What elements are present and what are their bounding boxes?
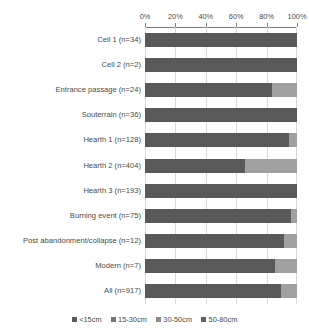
x-axis-tick-label: 40% xyxy=(198,12,213,21)
bar-segment xyxy=(284,234,297,248)
bar-segment xyxy=(245,159,297,173)
plot-area xyxy=(145,27,297,304)
bar-segment xyxy=(145,133,289,147)
bar-segment xyxy=(145,284,281,298)
category-label: Hearth 2 (n=404) xyxy=(0,162,141,170)
bar-segment xyxy=(289,133,297,147)
bar-segment xyxy=(145,83,272,97)
category-label: Souterrain (n=36) xyxy=(0,111,141,119)
x-axis-tick-label: 20% xyxy=(168,12,183,21)
legend-item: 15-30cm xyxy=(111,316,147,323)
legend-label: 15-30cm xyxy=(118,316,147,323)
x-axis-tick-label: 80% xyxy=(259,12,274,21)
bar-row xyxy=(145,209,297,223)
x-axis-tick-label: 0% xyxy=(140,12,151,21)
bar-segment xyxy=(291,209,297,223)
legend-label: <15cm xyxy=(79,316,101,323)
category-label: Modern (n=7) xyxy=(0,262,141,270)
bar-segment xyxy=(145,234,284,248)
category-label: Post abandonment/collapse (n=12) xyxy=(0,237,141,245)
bar-row xyxy=(145,58,297,72)
category-label: Cell 1 (n=34) xyxy=(0,36,141,44)
bar-segment xyxy=(145,58,297,72)
bar-row xyxy=(145,33,297,47)
bar-row xyxy=(145,284,297,298)
bar-segment xyxy=(145,159,245,173)
category-label: Entrance passage (n=24) xyxy=(0,86,141,94)
bar-row xyxy=(145,159,297,173)
category-label: All (n=917) xyxy=(0,287,141,295)
legend-label: 50-80cm xyxy=(209,316,238,323)
legend-item: 30-50cm xyxy=(156,316,192,323)
bar-row xyxy=(145,184,297,198)
legend-item: 50-80cm xyxy=(201,316,237,323)
category-label: Hearth 1 (n=128) xyxy=(0,136,141,144)
bar-segment xyxy=(281,284,297,298)
x-axis-tick-label: 60% xyxy=(229,12,244,21)
category-label: Cell 2 (n=2) xyxy=(0,61,141,69)
bar-row xyxy=(145,108,297,122)
x-axis-tickmark xyxy=(297,23,298,27)
legend-swatch-icon xyxy=(111,317,116,322)
bar-row xyxy=(145,234,297,248)
x-axis-tick-labels: 0%20%40%60%80%100% xyxy=(145,12,297,23)
legend-item: <15cm xyxy=(72,316,102,323)
x-axis-tick-label: 100% xyxy=(288,12,307,21)
bar-segment xyxy=(272,83,297,97)
bars-layer xyxy=(145,27,297,304)
bar-row xyxy=(145,133,297,147)
legend-swatch-icon xyxy=(72,317,77,322)
y-axis-category-labels: Cell 1 (n=34)Cell 2 (n=2)Entrance passag… xyxy=(0,27,141,304)
bar-row xyxy=(145,259,297,273)
category-label: Burning event (n=75) xyxy=(0,212,141,220)
bar-segment xyxy=(145,33,297,47)
legend-swatch-icon xyxy=(201,317,206,322)
bar-segment xyxy=(145,184,297,198)
bar-segment xyxy=(275,259,297,273)
category-label: Hearth 3 (n=193) xyxy=(0,187,141,195)
bar-row xyxy=(145,83,297,97)
legend-swatch-icon xyxy=(156,317,161,322)
bar-segment xyxy=(145,259,275,273)
stacked-bar-chart: 0%20%40%60%80%100% Cell 1 (n=34)Cell 2 (… xyxy=(0,0,309,333)
chart-legend: <15cm15-30cm30-50cm50-80cm xyxy=(0,316,309,323)
bar-segment xyxy=(145,209,291,223)
bar-segment xyxy=(145,108,297,122)
legend-label: 30-50cm xyxy=(163,316,192,323)
